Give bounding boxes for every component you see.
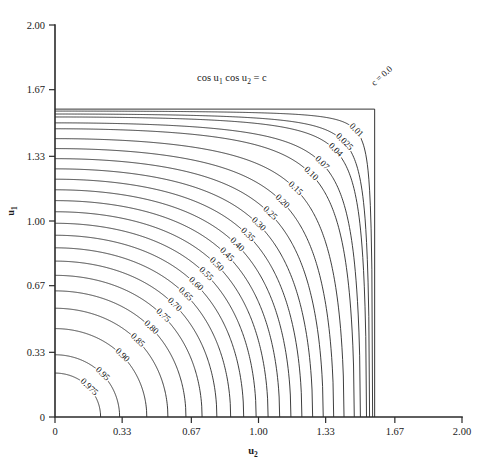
- y-tick-label: 0.33: [27, 347, 45, 358]
- x-tick-label: 2.00: [453, 426, 471, 437]
- y-tick-label: 1.33: [27, 151, 45, 162]
- contour-label: 0.15: [287, 179, 306, 197]
- x-tick-label: 0.67: [182, 426, 200, 437]
- contour-label: 0.975: [79, 376, 101, 398]
- y-tick-label: 0: [40, 412, 45, 423]
- y-tick-label: 1.00: [27, 216, 45, 227]
- contour-label: 0.95: [94, 365, 113, 383]
- contour-label: 0.80: [142, 318, 161, 336]
- contour-labels-group: c = 0.0c = 0.00.010.010.0250.0250.040.04…: [79, 63, 395, 397]
- contour-label: 0.25: [261, 204, 280, 222]
- y-tick-label: 2.00: [27, 20, 45, 31]
- contour-figure: c = 0.0c = 0.00.010.010.0250.0250.040.04…: [0, 0, 486, 464]
- contour-label: 0.75: [154, 306, 173, 324]
- contour-line: [55, 275, 202, 417]
- contour-label: c = 0.0: [369, 63, 395, 87]
- contour-label: 0.90: [114, 346, 133, 364]
- x-axis-title: u2: [248, 445, 258, 459]
- contour-label: 0.70: [166, 295, 185, 313]
- y-axis-title: u1: [5, 206, 19, 216]
- contour-label: 0.85: [129, 331, 148, 349]
- contour-label: 0.10: [302, 164, 321, 182]
- x-tick-label: 0.33: [113, 426, 131, 437]
- contour-label: 0.01: [347, 121, 365, 139]
- y-tick-label: 1.67: [27, 84, 45, 95]
- x-tick-label: 1.67: [386, 426, 404, 437]
- x-tick-label: 0: [52, 426, 57, 437]
- contour-plot-svg: c = 0.0c = 0.00.010.010.0250.0250.040.04…: [0, 0, 486, 464]
- y-tick-label: 0.67: [27, 280, 45, 291]
- contour-label: 0.20: [274, 192, 293, 210]
- x-tick-label: 1.33: [316, 426, 334, 437]
- equation-annotation: cos u1 cos u2 = c: [197, 72, 267, 86]
- x-tick-label: 1.00: [249, 426, 267, 437]
- contour-label: 0.07: [313, 154, 332, 173]
